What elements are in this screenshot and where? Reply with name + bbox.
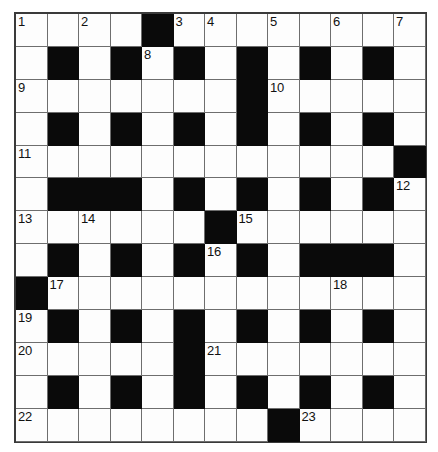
grid-letter-cell[interactable] bbox=[237, 343, 269, 376]
grid-letter-cell[interactable] bbox=[111, 343, 143, 376]
grid-letter-cell[interactable] bbox=[16, 113, 48, 146]
crossword-grid[interactable]: 1234567891011121314151617181920212223 bbox=[15, 13, 426, 442]
grid-letter-cell[interactable] bbox=[16, 47, 48, 80]
grid-letter-cell[interactable] bbox=[48, 211, 80, 244]
grid-letter-cell[interactable] bbox=[300, 146, 332, 179]
grid-letter-cell[interactable] bbox=[268, 244, 300, 277]
grid-letter-cell[interactable] bbox=[363, 14, 395, 47]
grid-letter-cell[interactable] bbox=[300, 277, 332, 310]
grid-letter-cell[interactable]: 18 bbox=[331, 277, 363, 310]
grid-letter-cell[interactable] bbox=[48, 146, 80, 179]
grid-letter-cell[interactable] bbox=[237, 277, 269, 310]
grid-letter-cell[interactable] bbox=[331, 113, 363, 146]
grid-letter-cell[interactable] bbox=[79, 47, 111, 80]
grid-letter-cell[interactable]: 8 bbox=[142, 47, 174, 80]
grid-letter-cell[interactable] bbox=[300, 80, 332, 113]
grid-letter-cell[interactable]: 2 bbox=[79, 14, 111, 47]
grid-letter-cell[interactable] bbox=[300, 211, 332, 244]
grid-letter-cell[interactable] bbox=[268, 178, 300, 211]
grid-letter-cell[interactable] bbox=[111, 211, 143, 244]
grid-letter-cell[interactable] bbox=[205, 80, 237, 113]
grid-letter-cell[interactable] bbox=[174, 277, 206, 310]
grid-letter-cell[interactable] bbox=[142, 211, 174, 244]
grid-letter-cell[interactable] bbox=[48, 14, 80, 47]
grid-letter-cell[interactable] bbox=[79, 343, 111, 376]
grid-letter-cell[interactable] bbox=[174, 146, 206, 179]
grid-letter-cell[interactable] bbox=[268, 277, 300, 310]
grid-letter-cell[interactable] bbox=[111, 277, 143, 310]
grid-letter-cell[interactable] bbox=[142, 277, 174, 310]
grid-letter-cell[interactable] bbox=[79, 80, 111, 113]
grid-letter-cell[interactable] bbox=[363, 80, 395, 113]
grid-letter-cell[interactable] bbox=[111, 14, 143, 47]
grid-letter-cell[interactable] bbox=[331, 409, 363, 442]
grid-letter-cell[interactable] bbox=[48, 80, 80, 113]
grid-letter-cell[interactable] bbox=[205, 146, 237, 179]
grid-letter-cell[interactable]: 16 bbox=[205, 244, 237, 277]
grid-letter-cell[interactable]: 5 bbox=[268, 14, 300, 47]
grid-letter-cell[interactable] bbox=[331, 310, 363, 343]
grid-letter-cell[interactable]: 7 bbox=[394, 14, 426, 47]
grid-letter-cell[interactable] bbox=[79, 310, 111, 343]
grid-letter-cell[interactable] bbox=[79, 409, 111, 442]
grid-letter-cell[interactable] bbox=[394, 409, 426, 442]
grid-letter-cell[interactable]: 19 bbox=[16, 310, 48, 343]
grid-letter-cell[interactable] bbox=[394, 310, 426, 343]
grid-letter-cell[interactable] bbox=[174, 409, 206, 442]
grid-letter-cell[interactable] bbox=[394, 113, 426, 146]
grid-letter-cell[interactable] bbox=[268, 376, 300, 409]
grid-letter-cell[interactable]: 3 bbox=[174, 14, 206, 47]
grid-letter-cell[interactable] bbox=[394, 244, 426, 277]
grid-letter-cell[interactable] bbox=[205, 47, 237, 80]
grid-letter-cell[interactable] bbox=[268, 146, 300, 179]
grid-letter-cell[interactable]: 10 bbox=[268, 80, 300, 113]
grid-letter-cell[interactable] bbox=[331, 178, 363, 211]
grid-letter-cell[interactable] bbox=[268, 47, 300, 80]
grid-letter-cell[interactable] bbox=[237, 14, 269, 47]
grid-letter-cell[interactable] bbox=[48, 409, 80, 442]
grid-letter-cell[interactable]: 12 bbox=[394, 178, 426, 211]
grid-letter-cell[interactable] bbox=[237, 146, 269, 179]
grid-letter-cell[interactable] bbox=[48, 343, 80, 376]
grid-letter-cell[interactable] bbox=[174, 80, 206, 113]
grid-letter-cell[interactable]: 14 bbox=[79, 211, 111, 244]
grid-letter-cell[interactable] bbox=[79, 146, 111, 179]
grid-letter-cell[interactable] bbox=[16, 376, 48, 409]
grid-letter-cell[interactable] bbox=[331, 376, 363, 409]
grid-letter-cell[interactable] bbox=[331, 146, 363, 179]
grid-letter-cell[interactable] bbox=[268, 211, 300, 244]
grid-letter-cell[interactable]: 21 bbox=[205, 343, 237, 376]
grid-letter-cell[interactable] bbox=[79, 113, 111, 146]
grid-letter-cell[interactable] bbox=[394, 376, 426, 409]
grid-letter-cell[interactable] bbox=[205, 113, 237, 146]
grid-letter-cell[interactable] bbox=[363, 409, 395, 442]
grid-letter-cell[interactable]: 13 bbox=[16, 211, 48, 244]
grid-letter-cell[interactable] bbox=[268, 113, 300, 146]
grid-letter-cell[interactable] bbox=[363, 211, 395, 244]
grid-letter-cell[interactable] bbox=[331, 211, 363, 244]
grid-letter-cell[interactable] bbox=[111, 409, 143, 442]
grid-letter-cell[interactable]: 4 bbox=[205, 14, 237, 47]
grid-letter-cell[interactable] bbox=[111, 80, 143, 113]
grid-letter-cell[interactable] bbox=[394, 47, 426, 80]
grid-letter-cell[interactable] bbox=[174, 211, 206, 244]
grid-letter-cell[interactable]: 11 bbox=[16, 146, 48, 179]
grid-letter-cell[interactable] bbox=[394, 277, 426, 310]
grid-letter-cell[interactable]: 6 bbox=[331, 14, 363, 47]
grid-letter-cell[interactable] bbox=[363, 343, 395, 376]
grid-letter-cell[interactable] bbox=[394, 80, 426, 113]
grid-letter-cell[interactable] bbox=[331, 80, 363, 113]
grid-letter-cell[interactable] bbox=[79, 244, 111, 277]
grid-letter-cell[interactable]: 9 bbox=[16, 80, 48, 113]
grid-letter-cell[interactable] bbox=[79, 277, 111, 310]
grid-letter-cell[interactable] bbox=[142, 409, 174, 442]
grid-letter-cell[interactable] bbox=[268, 310, 300, 343]
grid-letter-cell[interactable]: 22 bbox=[16, 409, 48, 442]
grid-letter-cell[interactable] bbox=[142, 113, 174, 146]
grid-letter-cell[interactable] bbox=[16, 178, 48, 211]
grid-letter-cell[interactable] bbox=[142, 146, 174, 179]
grid-letter-cell[interactable] bbox=[205, 376, 237, 409]
grid-letter-cell[interactable] bbox=[300, 14, 332, 47]
grid-letter-cell[interactable]: 20 bbox=[16, 343, 48, 376]
grid-letter-cell[interactable] bbox=[237, 409, 269, 442]
